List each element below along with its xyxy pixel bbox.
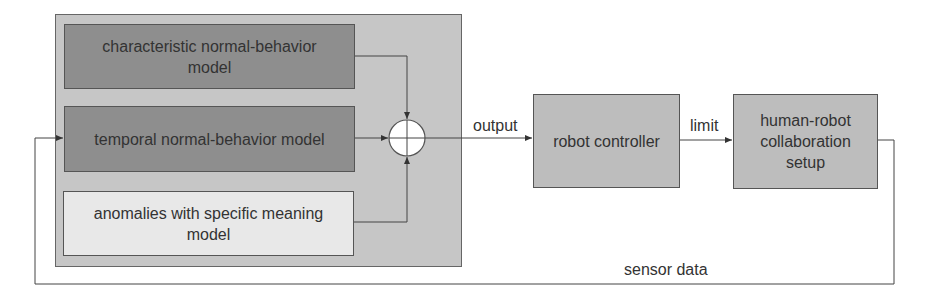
connector-wires bbox=[0, 0, 933, 303]
edge-anomalies-to-junction bbox=[354, 157, 407, 222]
output-label: output bbox=[473, 117, 517, 135]
limit-label: limit bbox=[690, 117, 718, 135]
sensor-data-label: sensor data bbox=[624, 261, 708, 279]
edge-characteristic-to-junction bbox=[355, 56, 407, 119]
summing-junction-icon bbox=[389, 120, 425, 156]
edge-sensor-data bbox=[35, 138, 894, 284]
